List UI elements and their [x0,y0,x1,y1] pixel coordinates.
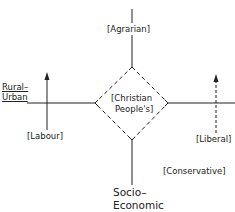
axis-label-socio: Socio– [113,186,146,199]
axis-label-economic: Economic [113,199,164,212]
label-labour: [Labour] [27,131,63,141]
diagram-canvas: [Agrarian] Rural– Urban [Christian Peopl… [0,0,235,212]
labour-arrowhead-icon [45,72,50,80]
axis-label-urban: Urban [2,92,28,102]
label-agrarian: [Agrarian] [107,24,150,34]
label-christian-2: People's] [115,104,153,114]
label-christian-1: [Christian [111,93,152,103]
label-conservative: [Conservative] [163,166,226,176]
liberal-arrowhead-icon [214,74,219,82]
label-liberal: [Liberal] [196,134,231,144]
axis-label-rural: Rural– [2,82,28,92]
